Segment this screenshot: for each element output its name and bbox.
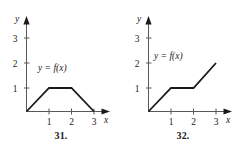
function-curve bbox=[149, 63, 217, 112]
y-tick-label-1: 1 bbox=[135, 84, 140, 94]
plot-32: y x 1 2 3 1 2 3 y = f(x) bbox=[122, 0, 244, 131]
x-tick-label-1: 1 bbox=[169, 117, 174, 127]
y-axis-arrow-icon bbox=[145, 16, 151, 25]
y-tick-label-2: 2 bbox=[135, 59, 140, 69]
figure-number-32: 32. bbox=[122, 130, 244, 141]
x-axis-label: x bbox=[225, 115, 231, 125]
figure-number-31: 31. bbox=[0, 130, 122, 141]
x-tick-label-3: 3 bbox=[92, 117, 97, 127]
y-axis-label: y bbox=[14, 14, 20, 24]
function-curve bbox=[27, 88, 95, 112]
x-tick-label-1: 1 bbox=[47, 117, 52, 127]
x-axis-label: x bbox=[103, 115, 109, 125]
y-tick-label-2: 2 bbox=[13, 59, 18, 69]
plot-31: y x 1 2 3 1 2 3 y = f(x) bbox=[0, 0, 122, 131]
y-tick-label-3: 3 bbox=[13, 34, 18, 44]
figure-panel-32: y x 1 2 3 1 2 3 y = f(x) 32. bbox=[122, 0, 244, 154]
x-tick-label-3: 3 bbox=[214, 117, 219, 127]
curve-label: y = f(x) bbox=[37, 63, 67, 74]
figure-panel-31: y x 1 2 3 1 2 3 y = f(x) 31. bbox=[0, 0, 122, 154]
x-axis-arrow-icon bbox=[102, 108, 111, 114]
x-tick-label-2: 2 bbox=[191, 117, 196, 127]
y-axis-label: y bbox=[136, 14, 142, 24]
x-axis-arrow-icon bbox=[224, 108, 233, 114]
y-tick-label-1: 1 bbox=[13, 84, 18, 94]
x-tick-label-2: 2 bbox=[69, 117, 74, 127]
curve-label: y = f(x) bbox=[153, 51, 183, 62]
y-tick-label-3: 3 bbox=[135, 34, 140, 44]
y-axis-arrow-icon bbox=[23, 16, 29, 25]
